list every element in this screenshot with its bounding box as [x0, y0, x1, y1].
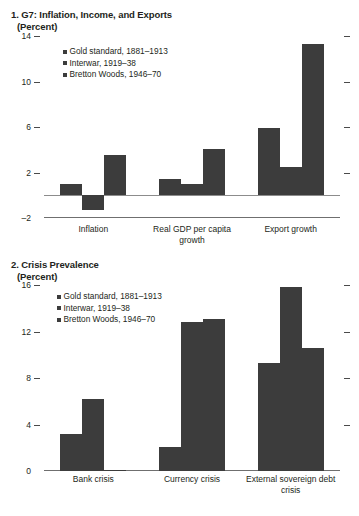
bar: [203, 319, 225, 471]
y-axis-tick-mark: [344, 36, 350, 37]
bar: [181, 184, 203, 195]
y-axis-tick-mark: [34, 82, 40, 83]
y-axis-tick-mark: [34, 173, 40, 174]
y-axis-tick-mark: [344, 82, 350, 83]
bar: [159, 447, 181, 471]
y-axis-tick-label: –2: [22, 214, 44, 223]
bar: [258, 128, 280, 195]
y-axis-tick-mark: [34, 425, 40, 426]
bar: [258, 363, 280, 471]
category-label: Inflation: [44, 224, 143, 235]
bar: [104, 155, 126, 195]
y-axis-tick-mark: [34, 127, 40, 128]
category-label: Real GDP per capita growth: [143, 224, 242, 245]
panel-1-title: 1. G7: Inflation, Income, and Exports (P…: [11, 9, 172, 32]
y-axis-tick-label: 0: [26, 467, 44, 476]
bar: [302, 348, 324, 471]
bar: [280, 287, 302, 471]
category-label: Export growth: [241, 224, 340, 235]
category-label: External sovereign debt crisis: [241, 474, 340, 495]
bar: [302, 44, 324, 195]
category-label: Bank crisis: [44, 474, 143, 485]
y-axis-tick-label: 10: [22, 77, 44, 86]
bar: [159, 179, 181, 195]
chart-panel-2: 2. Crisis Prevalence (Percent) Gold stan…: [0, 250, 359, 516]
category-label: Currency crisis: [143, 474, 242, 485]
y-axis-tick-mark: [344, 285, 350, 286]
plot-area-1: –2261014: [44, 36, 340, 218]
bar: [280, 167, 302, 195]
plot-area-2: 0481216: [44, 285, 340, 471]
panel-1-subtitle: (Percent): [11, 21, 172, 33]
y-axis-tick-label: 12: [22, 327, 44, 336]
panel-2-title-text: 2. Crisis Prevalence: [11, 259, 99, 270]
panel-1-title-text: 1. G7: Inflation, Income, and Exports: [11, 9, 172, 20]
y-axis-tick-mark: [34, 332, 40, 333]
y-axis-tick-mark: [344, 378, 350, 379]
x-axis-line: [44, 217, 340, 218]
bar: [104, 470, 126, 471]
y-axis-tick-label: 16: [22, 281, 44, 290]
panel-2-title: 2. Crisis Prevalence (Percent): [11, 259, 99, 282]
y-axis-tick-mark: [344, 425, 350, 426]
bar: [60, 184, 82, 195]
y-axis-tick-mark: [344, 127, 350, 128]
bar: [203, 149, 225, 196]
bar: [60, 434, 82, 471]
y-axis-tick-mark: [34, 285, 40, 286]
y-axis-tick-label: 14: [22, 32, 44, 41]
y-axis-tick-mark: [34, 36, 40, 37]
bar: [82, 195, 104, 210]
chart-panel-1: 1. G7: Inflation, Income, and Exports (P…: [0, 0, 359, 250]
bar: [181, 322, 203, 471]
bar: [82, 399, 104, 471]
y-axis-tick-mark: [344, 332, 350, 333]
y-axis-tick-mark: [34, 378, 40, 379]
y-axis-tick-mark: [344, 173, 350, 174]
